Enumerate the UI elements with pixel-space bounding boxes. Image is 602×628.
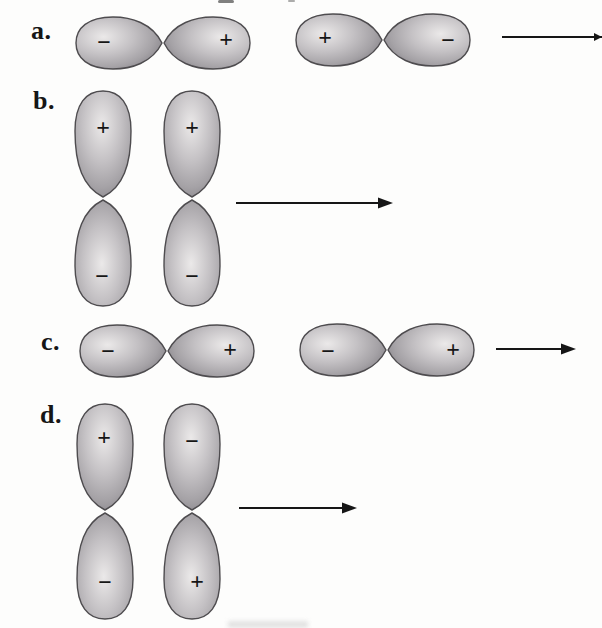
orbital-lobe-right bbox=[384, 14, 470, 66]
reaction-arrow bbox=[496, 342, 578, 356]
lobe-sign-minus: − bbox=[97, 30, 111, 54]
orbital-lobe-top bbox=[77, 404, 133, 510]
row-label-c: c. bbox=[41, 329, 60, 355]
orbital-lobe-top bbox=[75, 91, 131, 197]
scan-artifact bbox=[228, 621, 308, 628]
orbital-lobe-left bbox=[300, 324, 386, 376]
lobe-sign-minus: − bbox=[101, 339, 115, 363]
orbital-lobe-left bbox=[80, 325, 166, 377]
orbital-lobe-bottom bbox=[164, 200, 220, 306]
lobe-sign-plus: + bbox=[190, 569, 204, 593]
lobe-sign-plus: + bbox=[96, 115, 110, 139]
orbital-lobe-right bbox=[168, 325, 254, 377]
orbital-lobe-bottom bbox=[77, 513, 133, 619]
orbital-overlap-diagram: a. − + + − b. + − + − c. − + − bbox=[0, 0, 602, 628]
row-label-d: d. bbox=[40, 402, 62, 428]
lobe-sign-plus: + bbox=[446, 337, 460, 361]
scan-artifact bbox=[288, 0, 295, 2]
lobe-sign-minus: − bbox=[98, 570, 112, 594]
orbital-lobe-right bbox=[388, 324, 474, 376]
reaction-arrow bbox=[502, 30, 602, 44]
reaction-arrow bbox=[236, 196, 394, 210]
lobe-sign-plus: + bbox=[223, 337, 237, 361]
lobe-sign-plus: + bbox=[219, 27, 233, 51]
orbital-lobe-bottom bbox=[164, 513, 220, 619]
reaction-arrow bbox=[239, 501, 359, 515]
orbital-lobe-left bbox=[296, 14, 382, 66]
row-label-b: b. bbox=[33, 88, 55, 114]
orbital-lobe-bottom bbox=[75, 200, 131, 306]
lobe-sign-minus: − bbox=[185, 429, 199, 453]
lobe-sign-plus: + bbox=[185, 115, 199, 139]
orbital-lobe-left bbox=[76, 17, 162, 69]
scan-artifact bbox=[218, 0, 234, 3]
row-label-a: a. bbox=[31, 18, 52, 44]
lobe-sign-minus: − bbox=[185, 264, 199, 288]
orbital-lobe-top bbox=[164, 404, 220, 510]
lobe-sign-plus: + bbox=[318, 25, 332, 49]
lobe-sign-minus: − bbox=[321, 339, 335, 363]
orbital-lobe-top bbox=[164, 91, 220, 197]
lobe-sign-minus: − bbox=[95, 264, 109, 288]
lobe-sign-plus: + bbox=[97, 425, 111, 449]
lobe-sign-minus: − bbox=[441, 28, 455, 52]
orbital-lobe-right bbox=[164, 17, 250, 69]
